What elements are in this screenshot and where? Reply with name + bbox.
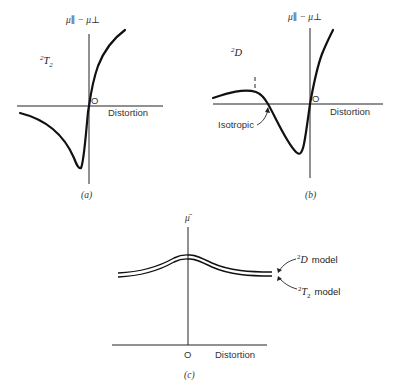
- panel-a-state-label: 2T2: [40, 54, 53, 69]
- panel-a-y-axis-label: μ∥ − μ⊥: [65, 15, 100, 25]
- panel-c-x-axis-label: Distortion: [215, 349, 255, 360]
- panel-c-y-axis-label: μ̄: [184, 213, 193, 223]
- panel-b-state-label: 2D: [231, 46, 243, 58]
- panel-c-caption: (c): [184, 370, 195, 381]
- panel-a-origin-label: O: [91, 95, 98, 106]
- panel-c-origin-label: O: [184, 349, 191, 360]
- panel-c-label-2d-model: 2Dmodel: [297, 253, 338, 265]
- panel-a-curve: [20, 30, 125, 168]
- panel-b-x-axis-label: Distortion: [330, 106, 370, 117]
- panel-c-label-2t2-model: 2T2model: [298, 285, 340, 300]
- panel-b-origin-label: O: [312, 93, 319, 104]
- figure-canvas: μ∥ − μ⊥ 2T2 O Distortion (a) μ∥ − μ⊥ 2D …: [0, 0, 400, 389]
- panel-b: μ∥ − μ⊥ 2D O Distortion Isotropic (b): [213, 12, 383, 201]
- panel-c-curve-2t2-model: [118, 259, 272, 277]
- panel-c-curve-2d-model: [118, 255, 272, 273]
- panel-b-caption: (b): [305, 190, 316, 201]
- panel-a-x-axis-label: Distortion: [108, 107, 148, 118]
- arrowhead-2d-icon: [277, 268, 282, 273]
- arrow-2d-model: [279, 259, 296, 271]
- panel-c: μ̄ 2Dmodel 2T2model O Distortion (c): [112, 213, 340, 381]
- arrow-2t2-model: [279, 278, 297, 289]
- panel-b-isotropic-label: Isotropic: [218, 119, 254, 130]
- panel-b-y-axis-label: μ∥ − μ⊥: [287, 12, 322, 22]
- panel-a-caption: (a): [81, 190, 92, 201]
- panel-a: μ∥ − μ⊥ 2T2 O Distortion (a): [17, 15, 163, 201]
